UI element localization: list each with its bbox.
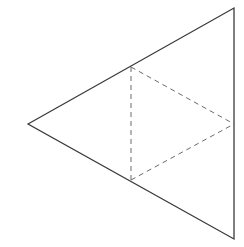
fold-line-bottom-to-right-midpoint [131, 124, 234, 180]
tetrahedron-net-diagram [0, 0, 244, 247]
fold-lines [131, 67, 234, 180]
diagram-canvas [0, 0, 244, 247]
fold-line-top-to-right-midpoint [131, 67, 234, 124]
